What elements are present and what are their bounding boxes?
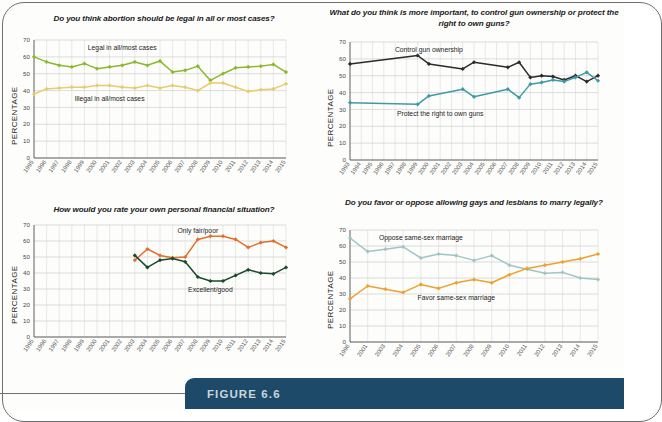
x-tick-label: 1994	[350, 161, 363, 176]
x-tick-label: 2000	[85, 159, 98, 174]
svg-text:60: 60	[339, 55, 346, 62]
x-tick-label: 2008	[186, 338, 199, 353]
x-tick-label: 2003	[123, 338, 136, 353]
data-point	[57, 86, 61, 90]
x-tick-label: 2008	[462, 343, 475, 358]
x-tick-label: 2014	[569, 343, 582, 358]
x-tick-label: 1996	[338, 343, 351, 358]
series-annotation: Legal in all/most cases	[88, 44, 157, 52]
x-tick-label: 2008	[507, 161, 520, 176]
x-tick-label: 1997	[383, 161, 396, 176]
series-annotation: Only fair/poor	[177, 227, 219, 235]
x-tick-label: 2012	[236, 338, 249, 353]
svg-text:10: 10	[23, 317, 30, 324]
x-tick-label: 1998	[60, 159, 73, 174]
x-tick-label: 2005	[148, 338, 161, 353]
x-tick-label: 2009	[199, 338, 212, 353]
svg-text:60: 60	[339, 242, 346, 249]
x-tick-label: 2012	[552, 161, 565, 176]
x-tick-label: 2001	[356, 343, 369, 358]
data-point	[543, 271, 547, 275]
svg-text:10: 10	[339, 322, 346, 329]
svg-text:40: 40	[23, 269, 30, 276]
data-point	[454, 254, 458, 258]
svg-text:60: 60	[23, 53, 30, 60]
svg-text:20: 20	[339, 306, 346, 313]
data-point	[108, 83, 112, 87]
x-tick-label: 1998	[60, 338, 73, 353]
x-tick-label: 1995	[361, 161, 374, 176]
data-point	[145, 63, 149, 67]
data-point	[120, 63, 124, 67]
data-point	[32, 55, 36, 59]
svg-text:30: 30	[23, 285, 30, 292]
svg-text:70: 70	[339, 226, 346, 233]
data-point	[540, 74, 544, 78]
x-tick-label: 2009	[519, 161, 532, 176]
x-tick-label: 1996	[35, 338, 48, 353]
x-tick-label: 2000	[417, 161, 430, 176]
svg-text:70: 70	[339, 38, 346, 45]
figure-banner: FIGURE 6.6	[185, 378, 624, 409]
data-point	[158, 86, 162, 90]
data-point	[221, 234, 225, 238]
chart-title: What do you think is more important, to …	[328, 8, 620, 38]
data-point	[108, 65, 112, 69]
x-tick-label: 2006	[161, 338, 174, 353]
x-tick-label: 2011	[224, 159, 237, 174]
data-point	[551, 78, 555, 82]
svg-text:40: 40	[339, 89, 346, 96]
series-annotation: Excellent/good	[188, 286, 233, 294]
x-tick-label: 2015	[586, 343, 599, 358]
y-axis-label: PERCENTAGE	[326, 88, 335, 147]
x-tick-label: 2002	[440, 161, 453, 176]
data-point	[208, 234, 212, 238]
data-point	[57, 63, 61, 67]
x-tick-label: 2010	[498, 343, 511, 358]
x-tick-label: 2003	[374, 343, 387, 358]
x-tick-label: 2005	[409, 343, 422, 358]
svg-text:10: 10	[23, 137, 30, 144]
data-point	[596, 252, 600, 256]
chart-svg-samesex: 0102030405060701996200120032004200520062…	[320, 226, 608, 378]
svg-text:40: 40	[339, 274, 346, 281]
data-point	[145, 83, 149, 87]
x-tick-label: 2014	[575, 161, 588, 176]
banner-rule	[0, 393, 190, 394]
x-tick-label: 2011	[224, 338, 237, 353]
plot-area: 0102030405060701996200120032004200520062…	[320, 226, 620, 378]
data-point	[284, 82, 288, 86]
y-axis-label: PERCENTAGE	[10, 266, 19, 325]
svg-text:30: 30	[339, 290, 346, 297]
data-point	[95, 83, 99, 87]
x-tick-label: 2010	[211, 338, 224, 353]
x-tick-label: 2006	[161, 159, 174, 174]
x-tick-label: 2000	[85, 338, 98, 353]
x-tick-label: 1993	[338, 161, 351, 176]
chart-panel-finances: How would you rate your own personal fin…	[4, 205, 312, 380]
x-tick-label: 2010	[530, 161, 543, 176]
x-tick-label: 1999	[73, 159, 86, 174]
x-tick-label: 2006	[485, 161, 498, 176]
data-point	[183, 85, 187, 89]
x-tick-label: 2015	[274, 338, 287, 353]
data-point	[578, 257, 582, 261]
x-tick-label: 1995	[22, 159, 35, 174]
data-point	[183, 68, 187, 72]
x-tick-label: 2001	[98, 338, 111, 353]
x-tick-label: 2005	[148, 159, 161, 174]
x-tick-label: 2002	[110, 159, 123, 174]
svg-text:50: 50	[339, 72, 346, 79]
x-tick-label: 2007	[496, 161, 509, 176]
data-point	[383, 287, 387, 291]
x-tick-label: 2005	[474, 161, 487, 176]
x-tick-label: 2009	[199, 159, 212, 174]
chart-panel-guns: What do you think is more important, to …	[320, 8, 620, 196]
chart-panel-samesex: Do you favor or oppose allowing gays and…	[320, 198, 620, 380]
x-tick-label: 2003	[451, 161, 464, 176]
svg-text:50: 50	[339, 258, 346, 265]
x-tick-label: 2009	[480, 343, 493, 358]
series-annotation: Illegal in all/most cases	[75, 95, 145, 103]
data-point	[259, 88, 263, 92]
data-point	[383, 247, 387, 251]
